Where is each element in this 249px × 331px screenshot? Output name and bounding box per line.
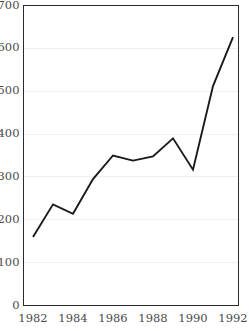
y-axis-tick-label: 700	[0, 0, 20, 12]
x-axis-tick-label: 1982	[18, 311, 47, 325]
x-axis-tick-label: 1984	[58, 311, 87, 325]
x-axis-tick-label: 1988	[138, 311, 167, 325]
x-axis-tick-label: 1986	[98, 311, 127, 325]
y-axis-tick-label: 500	[0, 83, 20, 97]
x-axis-tick-label: 1992	[218, 311, 247, 325]
x-axis-tick-label: 1990	[178, 311, 207, 325]
line-chart: 0100200300400500600700 19821984198619881…	[0, 0, 249, 331]
y-axis-tick-label: 300	[0, 169, 20, 183]
chart-background	[0, 0, 249, 331]
y-axis-tick-label: 0	[12, 298, 19, 312]
chart-canvas: 0100200300400500600700 19821984198619881…	[0, 0, 249, 331]
y-axis-tick-label: 600	[0, 40, 20, 54]
y-axis-tick-label: 200	[0, 212, 20, 226]
y-axis-tick-label: 100	[0, 255, 20, 269]
y-axis-tick-label: 400	[0, 126, 20, 140]
